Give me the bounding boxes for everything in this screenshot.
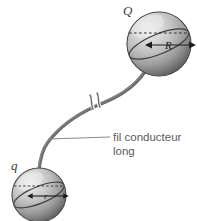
- lower-sphere-radius-label: r: [44, 191, 48, 201]
- upper-sphere-radius-label: R: [164, 39, 172, 51]
- upper-sphere-group: R Q: [123, 3, 192, 76]
- upper-sphere-charge-label: Q: [123, 3, 133, 18]
- figure-canvas: R Q r q fil conducteur long: [0, 0, 197, 221]
- lower-sphere-charge-label: q: [11, 158, 18, 173]
- physics-figure-two-charged-spheres: R Q r q fil conducteur long: [0, 0, 197, 221]
- annotation-line-2: long: [113, 145, 135, 157]
- annotation-leader-line: [48, 137, 110, 139]
- annotation-line-1: fil conducteur: [113, 131, 182, 143]
